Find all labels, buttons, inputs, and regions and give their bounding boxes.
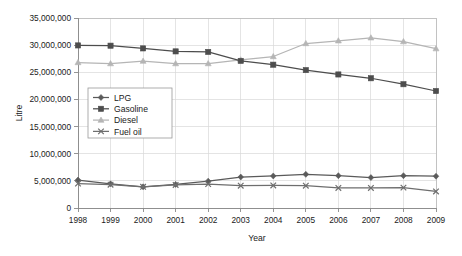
y-axis-tick-label: 5,000,000 (34, 176, 71, 186)
y-axis-tick-label: 10,000,000 (29, 149, 71, 159)
series-marker-gasoline (433, 88, 438, 93)
legend-label-fuel-oil: Fuel oil (114, 127, 142, 137)
x-axis-tick-label: 2007 (362, 215, 381, 225)
y-axis-tick-label: 35,000,000 (29, 13, 71, 23)
series-marker-gasoline (368, 76, 373, 81)
series-marker-gasoline (108, 43, 113, 48)
y-axis-tick-label: 30,000,000 (29, 40, 71, 50)
series-marker-gasoline (173, 49, 178, 54)
x-axis-tick-label: 2002 (199, 215, 218, 225)
x-axis-tick-label: 2000 (134, 215, 153, 225)
x-axis-tick-label: 2009 (427, 215, 446, 225)
x-axis-tick-label: 2008 (394, 215, 413, 225)
x-axis-tick-label: 2001 (166, 215, 185, 225)
series-marker-gasoline (336, 72, 341, 77)
legend-label-diesel: Diesel (114, 115, 138, 125)
x-axis-tick-label: 1998 (69, 215, 88, 225)
series-marker-gasoline (140, 46, 145, 51)
x-axis-tick-label: 2003 (231, 215, 250, 225)
line-chart: 05,000,00010,000,00015,000,00020,000,000… (0, 0, 462, 256)
x-axis-tick-label: 1999 (101, 215, 120, 225)
y-axis-tick-label: 20,000,000 (29, 94, 71, 104)
x-axis-tick-label: 2005 (297, 215, 316, 225)
series-marker-gasoline (303, 68, 308, 73)
series-marker-gasoline (271, 62, 276, 67)
series-marker-gasoline (206, 49, 211, 54)
y-axis-title: Litre (14, 104, 24, 121)
y-axis-tick-label: 25,000,000 (29, 67, 71, 77)
chart-canvas: 05,000,00010,000,00015,000,00020,000,000… (0, 0, 462, 256)
legend-label-lpg: LPG (114, 93, 132, 103)
series-marker-gasoline (238, 58, 243, 63)
x-axis-tick-label: 2006 (329, 215, 348, 225)
legend-label-gasoline: Gasoline (114, 104, 148, 114)
y-axis-tick-label: 0 (66, 203, 71, 213)
legend-marker-gasoline (98, 106, 103, 111)
series-marker-gasoline (75, 43, 80, 48)
x-axis-tick-label: 2004 (264, 215, 283, 225)
y-axis-tick-label: 15,000,000 (29, 122, 71, 132)
x-axis-title: Year (248, 233, 266, 243)
series-marker-gasoline (401, 82, 406, 87)
